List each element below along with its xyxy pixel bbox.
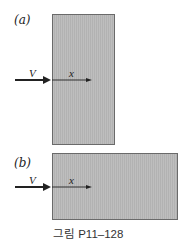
x-axis-arrow-b-icon (52, 185, 92, 189)
flow-arrow-a-icon (15, 76, 51, 84)
flow-arrow-b-icon (15, 183, 51, 191)
arrows-layer (0, 0, 188, 252)
figure-caption: 그림 P11–128 (53, 229, 123, 241)
x-axis-arrow-a-icon (52, 78, 92, 82)
